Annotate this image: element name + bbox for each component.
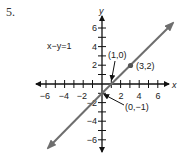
svg-text:−4: −4 <box>87 116 97 126</box>
x-axis-label: x <box>171 80 177 90</box>
x-axis: x −6−4−2 246 <box>36 80 177 101</box>
svg-text:−4: −4 <box>59 91 69 101</box>
point-3-2-label: (3,2) <box>136 61 155 71</box>
svg-text:4: 4 <box>136 91 141 101</box>
svg-text:2: 2 <box>92 60 97 70</box>
svg-text:6: 6 <box>92 23 97 33</box>
svg-text:−6: −6 <box>87 135 97 145</box>
svg-text:−6: −6 <box>40 91 50 101</box>
point-3-2 <box>128 63 133 68</box>
point-1-0-arrow <box>112 61 116 80</box>
svg-text:2: 2 <box>118 91 123 101</box>
svg-text:6: 6 <box>155 91 160 101</box>
point-0-neg1-label: (0,−1) <box>125 102 149 112</box>
point-1-0-label: (1,0) <box>108 50 127 60</box>
y-axis-label: y <box>98 6 104 16</box>
graph: x −6−4−2 246 y 642 −2−4−6 (3,2) (1,0) (0… <box>0 0 188 159</box>
svg-text:4: 4 <box>92 42 97 52</box>
y-axis: y 642 −2−4−6 <box>87 6 106 152</box>
svg-text:−2: −2 <box>77 91 87 101</box>
